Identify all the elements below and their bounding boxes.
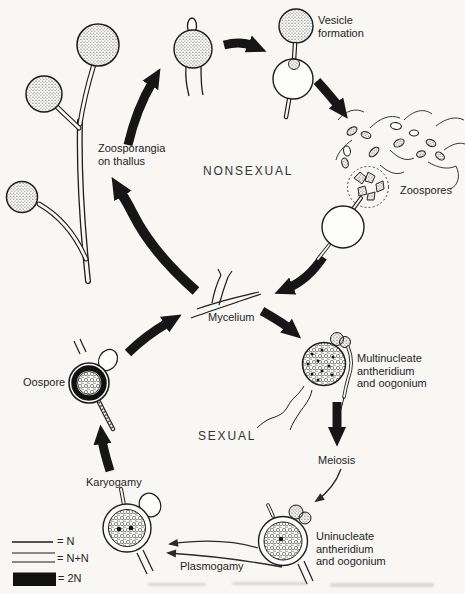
label-mycelium: Mycelium bbox=[208, 311, 254, 324]
label-meiosis: Meiosis bbox=[318, 454, 355, 467]
label-plasmogamy: Plasmogamy bbox=[180, 560, 244, 573]
karyogamy-cell-drawing bbox=[103, 489, 165, 574]
legend-label-n: = N bbox=[57, 535, 74, 547]
label-vesicle-line1: Vesicle bbox=[318, 14, 364, 27]
label-oospore: Oospore bbox=[23, 376, 65, 389]
arrow-meiosis-to-uninucleate bbox=[316, 469, 341, 501]
label-uninucleate-line2: antheridium bbox=[316, 543, 386, 556]
label-uninucleate: Uninucleate antheridium and oogonium bbox=[316, 530, 386, 568]
empty-sporangium-drawing bbox=[318, 198, 364, 259]
arrow-thallus-to-sporangium bbox=[128, 81, 153, 145]
oospore-drawing bbox=[69, 339, 121, 429]
legend-label-2n: = 2N bbox=[58, 572, 82, 584]
label-uninucleate-line1: Uninucleate bbox=[316, 530, 386, 543]
arrow-karyogamy-to-oospore bbox=[102, 439, 110, 471]
label-multinucleate-line3: and oogonium bbox=[357, 377, 427, 390]
caption-remnant bbox=[148, 583, 206, 586]
arrow-plasmogamy-upper bbox=[170, 541, 258, 548]
legend-filled-bar bbox=[13, 573, 56, 587]
label-vesicle-formation: Vesicle formation bbox=[318, 14, 364, 39]
label-zoosporangia-line2: on thallus bbox=[98, 155, 165, 168]
label-multinucleate: Multinucleate antheridium and oogonium bbox=[357, 352, 427, 390]
arrow-sporangium-to-vesicle bbox=[224, 43, 253, 46]
legend-symbols bbox=[12, 542, 56, 586]
caption-remnant bbox=[330, 583, 434, 587]
label-zoospores: Zoospores bbox=[400, 184, 452, 197]
arrow-vesicle-to-zoospores bbox=[317, 81, 339, 107]
arrow-oospore-to-mycelium bbox=[128, 322, 169, 353]
label-nonsexual: NONSEXUAL bbox=[203, 165, 293, 178]
diagram-canvas bbox=[0, 0, 465, 594]
label-multinucleate-line1: Multinucleate bbox=[357, 352, 427, 365]
caption-remnant bbox=[232, 582, 308, 585]
label-zoosporangia-line1: Zoosporangia bbox=[98, 142, 165, 155]
label-karyogamy: Karyogamy bbox=[86, 476, 142, 489]
arrow-mycelium-to-thallus bbox=[120, 191, 196, 291]
label-vesicle-line2: formation bbox=[318, 27, 364, 40]
label-multinucleate-line2: antheridium bbox=[357, 365, 427, 378]
figure-page: Zoosporangia on thallus NONSEXUAL Vesicl… bbox=[0, 0, 465, 594]
uninucleate-oogonium-drawing bbox=[259, 505, 314, 584]
label-uninucleate-line3: and oogonium bbox=[316, 555, 386, 568]
vesicle-formation-drawing bbox=[273, 9, 313, 117]
zoospore-cluster-drawing bbox=[348, 167, 389, 208]
arrow-cyst-to-mycelium bbox=[288, 257, 323, 288]
legend-label-n-plus-n: = N+N bbox=[57, 552, 89, 564]
label-zoosporangia: Zoosporangia on thallus bbox=[98, 142, 165, 167]
arrow-mycelium-to-multinucleate bbox=[262, 311, 290, 329]
label-sexual: SEXUAL bbox=[198, 430, 256, 443]
sporangium-drawing bbox=[174, 18, 212, 96]
